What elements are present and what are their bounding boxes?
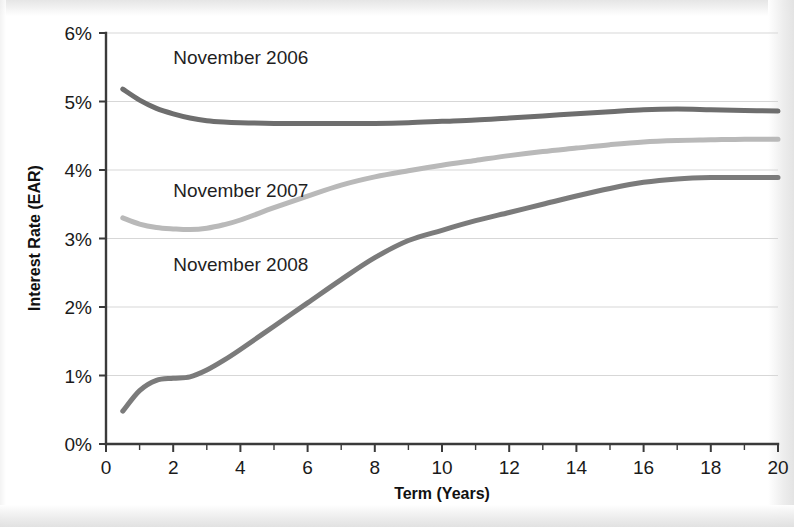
y-axis-title: Interest Rate (EAR) xyxy=(26,165,43,311)
x-tick-marks-group xyxy=(106,444,778,452)
x-tick-label: 12 xyxy=(499,457,520,478)
x-tick-label: 4 xyxy=(235,457,246,478)
y-tick-label: 1% xyxy=(65,366,93,387)
y-tick-label: 6% xyxy=(65,23,93,44)
series-label-november-2008: November 2008 xyxy=(173,254,308,275)
y-tick-label: 0% xyxy=(65,434,93,455)
x-tick-label: 0 xyxy=(101,457,112,478)
series-label-november-2007: November 2007 xyxy=(173,180,308,201)
x-tick-label: 8 xyxy=(370,457,381,478)
y-tick-labels-group: 0%1%2%3%4%5%6% xyxy=(65,23,93,455)
series-line-november-2008 xyxy=(123,177,778,411)
chart-canvas: 0%1%2%3%4%5%6% 02468101214161820 Novembe… xyxy=(0,0,794,527)
x-tick-label: 20 xyxy=(767,457,788,478)
yield-curve-chart: 0%1%2%3%4%5%6% 02468101214161820 Novembe… xyxy=(0,0,794,527)
x-tick-label: 18 xyxy=(700,457,721,478)
y-tick-label: 3% xyxy=(65,229,93,250)
series-line-november-2006 xyxy=(123,89,778,123)
y-tick-label: 2% xyxy=(65,297,93,318)
series-label-november-2006: November 2006 xyxy=(173,47,308,68)
x-tick-labels-group: 02468101214161820 xyxy=(101,457,789,478)
x-tick-label: 14 xyxy=(566,457,588,478)
gridlines-group xyxy=(106,33,778,376)
y-tick-label: 4% xyxy=(65,160,93,181)
x-tick-label: 2 xyxy=(168,457,179,478)
data-series-group xyxy=(123,89,778,411)
x-tick-label: 6 xyxy=(302,457,313,478)
x-tick-label: 16 xyxy=(633,457,654,478)
x-tick-label: 10 xyxy=(431,457,452,478)
series-annotations-group: November 2006November 2007November 2008 xyxy=(173,47,308,276)
x-axis-title: Term (Years) xyxy=(394,485,490,502)
y-tick-label: 5% xyxy=(65,92,93,113)
